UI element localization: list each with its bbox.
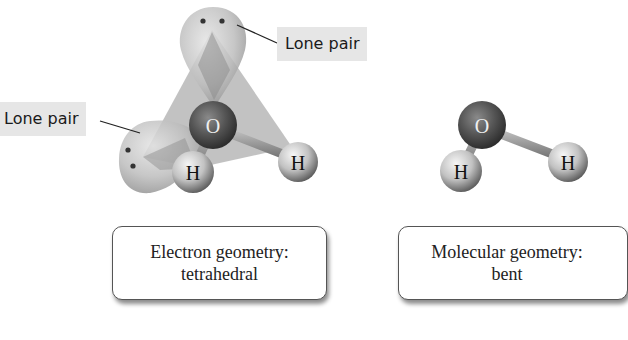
lone-pair-label-left: Lone pair bbox=[0, 102, 86, 136]
hydrogen-symbol: H bbox=[454, 161, 468, 183]
hydrogen-symbol: H bbox=[186, 162, 200, 184]
electron-dot bbox=[200, 18, 205, 23]
hydrogen-symbol: H bbox=[561, 152, 575, 174]
oxygen-symbol: O bbox=[475, 115, 489, 137]
leader-line-left bbox=[100, 121, 140, 133]
oxygen-symbol: O bbox=[206, 115, 220, 137]
hydrogen-symbol: H bbox=[291, 152, 305, 174]
lone-pair-label-top: Lone pair bbox=[277, 27, 367, 61]
molecular-geometry-caption: Molecular geometry: bent bbox=[398, 226, 628, 300]
electron-dot bbox=[130, 163, 135, 168]
caption-line-2: bent bbox=[399, 263, 615, 285]
caption-line-1: Electron geometry: bbox=[113, 241, 326, 263]
caption-line-2: tetrahedral bbox=[113, 263, 326, 285]
molecular-geometry-model: O H H bbox=[440, 101, 588, 192]
electron-geometry-caption: Electron geometry: tetrahedral bbox=[112, 226, 327, 300]
electron-dot bbox=[219, 18, 224, 23]
electron-dot bbox=[125, 147, 130, 152]
caption-line-1: Molecular geometry: bbox=[399, 241, 615, 263]
